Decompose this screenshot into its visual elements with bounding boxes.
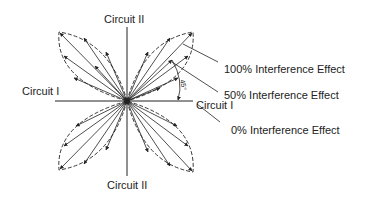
interference-100-label: 100% Interference Effect — [224, 63, 345, 75]
interference-0-label: 0% Interference Effect — [231, 124, 340, 136]
circuit-ii-bottom-label: Circuit II — [107, 179, 147, 191]
arrows-lower-right — [127, 101, 192, 171]
circuit-ii-top-label: Circuit II — [104, 13, 144, 25]
circuit-i-left-label: Circuit I — [22, 85, 59, 97]
arrows-upper-right — [127, 33, 192, 101]
arrows-upper-left — [60, 33, 127, 101]
interference-diagram: 45° Circuit II Circuit II Circuit I Circ… — [0, 0, 379, 204]
interference-50-label: 50% Interference Effect — [224, 89, 339, 101]
arrows-lower-left — [60, 101, 127, 169]
origin-point — [124, 98, 130, 104]
